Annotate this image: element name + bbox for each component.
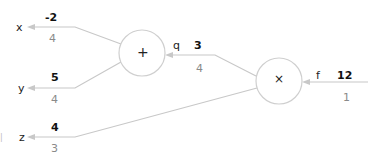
q-label: q xyxy=(173,40,180,51)
edge-mul-to-z xyxy=(32,88,257,137)
f-gradient: 1 xyxy=(343,92,350,103)
edge-mul-to-add xyxy=(170,55,256,76)
add-operator: + xyxy=(137,45,149,59)
arrowhead-z-icon xyxy=(27,134,35,140)
f-label: f xyxy=(316,70,320,81)
z-gradient: 3 xyxy=(51,143,58,154)
edge-add-to-x xyxy=(32,27,121,44)
mul-operator: × xyxy=(274,73,284,85)
y-label: y xyxy=(18,83,25,94)
y-gradient: 4 xyxy=(51,94,58,105)
x-gradient: 4 xyxy=(49,33,56,44)
q-value: 3 xyxy=(194,40,202,51)
z-label: z xyxy=(19,132,25,143)
x-label: x xyxy=(16,22,23,33)
arrowhead-x-icon xyxy=(27,24,35,30)
x-value: -2 xyxy=(45,12,57,23)
q-gradient: 4 xyxy=(196,63,203,74)
arrowhead-y-icon xyxy=(27,85,35,91)
f-value: 12 xyxy=(337,70,352,81)
arrowhead-q-icon xyxy=(165,52,173,58)
margin-mark: | xyxy=(0,134,3,142)
y-value: 5 xyxy=(51,72,59,83)
z-value: 4 xyxy=(51,122,59,133)
edge-add-to-y xyxy=(32,62,121,88)
arrowhead-f-icon xyxy=(302,79,310,85)
